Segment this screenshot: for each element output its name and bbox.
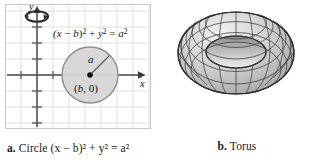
panel-torus: b. Torus [158, 0, 316, 160]
y-axis-label: y [28, 1, 34, 12]
caption-a-text: Circle (x − b)² + y² = a² [19, 142, 130, 154]
circle-center-point [87, 72, 93, 78]
circle-equation-label: (x − b)2 + y2 = a2 [53, 27, 128, 41]
caption-a-label: a. [7, 142, 16, 154]
caption-b-text: Torus [230, 140, 257, 152]
caption-b-label: b. [218, 140, 227, 152]
figure-container: (x − b)2 + y2 = a2 a (b, 0) x y a. Circl… [0, 0, 316, 160]
panel-circle: (x − b)2 + y2 = a2 a (b, 0) x y a. Circl… [0, 0, 158, 160]
center-coordinate-label: (b, 0) [74, 82, 98, 95]
caption-panel-a: a. Circle (x − b)² + y² = a² [0, 142, 158, 154]
x-axis-label: x [139, 78, 145, 89]
torus-diagram [158, 0, 316, 160]
caption-panel-b: b. Torus [158, 140, 316, 152]
circle-diagram: (x − b)2 + y2 = a2 a (b, 0) x y [0, 0, 158, 160]
radius-label: a [88, 53, 94, 65]
